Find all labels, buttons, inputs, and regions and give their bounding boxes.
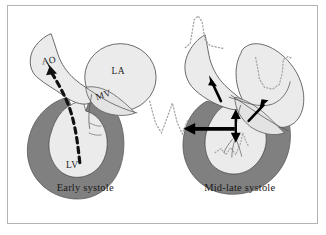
panel-early-systole: AO LA MV LV Early systole [8, 6, 163, 223]
figure-canvas: AO LA MV LV Early systole [0, 0, 326, 235]
label-aorta: AO [41, 55, 57, 67]
caption-mid-late-systole: Mid-late systole [163, 182, 318, 193]
panel-mid-late-systole: Mid-late systole [163, 6, 318, 223]
label-left-ventricle: LV [66, 160, 78, 170]
label-left-atrium: LA [112, 66, 125, 76]
figure-frame: AO LA MV LV Early systole [7, 5, 318, 224]
caption-early-systole: Early systole [8, 182, 163, 193]
